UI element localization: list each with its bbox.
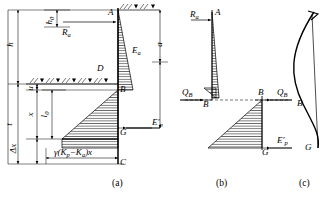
shear-block-QB [204,88,216,98]
caption-a: (a) [112,178,123,188]
force-label-QB-left: QB [182,88,192,97]
dim-label-delta-x: Δx [9,144,18,153]
force-label-Ep: E′p [152,118,163,127]
ground-surface-upper [118,4,160,10]
active-pressure-wedge [118,10,133,90]
dim-label-t: t [5,123,14,126]
point-label-G: G [120,128,127,137]
panel-a-graphics [8,4,168,164]
force-label-Ra: Ra [62,28,71,37]
point-label-B-c: B [297,99,303,108]
point-label-A-b: A [215,8,221,17]
caption-c: (c) [299,178,310,188]
figure-container: h h0 a t u x l0 Δx A D B G C Ra Ea E′p γ… [0,0,335,197]
ground-surface-lower [26,78,118,84]
caption-b: (b) [216,178,227,188]
dim-label-h0: h0 [45,17,54,25]
ground-symbol-triangles [134,5,155,9]
point-label-G-b: G [262,148,269,157]
shear-wedge-upper [212,12,219,98]
point-label-A: A [108,8,114,17]
point-label-G-c: G [305,143,312,152]
point-label-B: B [120,85,126,94]
panel-c-graphics [294,11,319,148]
dim-label-x: x [26,113,35,117]
shear-triangle-lower [208,100,262,148]
point-label-B-b-right: B [258,88,264,97]
force-label-Ra-b: Ra [190,10,199,19]
force-label-QB-right: QB [277,88,287,97]
force-label-Ea: Ea [132,46,141,55]
force-label-Ep-b: E′p [277,136,288,145]
pressure-formula: γ(Kp−Ka)x [54,148,92,157]
dim-label-l0: l0 [40,112,49,118]
dim-label-h: h [6,42,15,47]
figure-vector-layer [0,0,335,197]
point-label-D: D [97,64,104,73]
point-label-B-b-left: B [203,100,209,109]
panel-b-graphics [180,10,292,150]
dim-label-a: a [155,42,164,47]
point-label-C: C [120,158,126,167]
net-passive-pressure-wedge [62,90,118,139]
dim-label-u: u [26,86,35,91]
